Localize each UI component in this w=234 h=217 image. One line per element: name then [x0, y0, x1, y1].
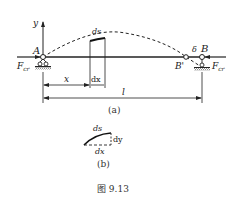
ds-arc [84, 133, 111, 145]
delta-label: δ [192, 45, 197, 54]
buckling-diagram: y ds A Fcr [0, 0, 234, 217]
ds-label: ds [92, 27, 101, 36]
panel-b: ds dy dx (b) [84, 124, 123, 169]
b-ds-label: ds [93, 124, 102, 133]
b-dy-label: dy [113, 135, 123, 144]
panel-a: y ds A Fcr [16, 18, 226, 115]
dim-x-label: x [64, 74, 69, 84]
force-right-label: Fcr [211, 61, 226, 72]
point-a-label: A [32, 45, 40, 56]
dim-dx-label: dx [91, 75, 101, 84]
subfig-a-label: (a) [108, 105, 120, 115]
b-dx-label: dx [95, 147, 105, 156]
ds-element [90, 38, 105, 41]
force-left-label: Fcr [16, 61, 31, 72]
subfig-b-label: (b) [97, 159, 110, 169]
point-b-prime [184, 55, 189, 60]
point-b-prime-label: B' [174, 61, 184, 71]
point-b-label: B [200, 43, 208, 54]
figure-caption: 图 9.13 [97, 184, 129, 194]
dim-l-label: l [122, 87, 125, 97]
y-axis-label: y [32, 18, 39, 28]
